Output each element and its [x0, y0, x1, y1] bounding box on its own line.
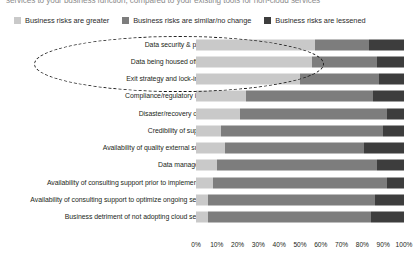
bar-segment[interactable]	[379, 74, 404, 85]
stacked-bar[interactable]	[196, 39, 404, 50]
x-axis-tick-label: 40%	[273, 241, 286, 249]
bar-segment[interactable]	[196, 160, 217, 171]
bar-segment[interactable]	[377, 56, 404, 67]
legend-swatch-lessened	[264, 17, 271, 24]
bar-segment[interactable]	[369, 39, 404, 50]
bar-segment[interactable]	[364, 143, 404, 154]
bar-segment[interactable]	[312, 56, 376, 67]
bar-segment[interactable]	[196, 74, 300, 85]
x-axis-tick-label: 30%	[252, 241, 265, 249]
stacked-bar[interactable]	[196, 125, 404, 136]
chart-row: Disaster/recovery of data	[0, 105, 414, 122]
bar-segment[interactable]	[246, 91, 373, 102]
x-axis-tick-label: 90%	[377, 241, 390, 249]
chart-row: Data security & privacy	[0, 36, 414, 53]
bar-segment[interactable]	[196, 177, 213, 188]
bar-segment[interactable]	[196, 212, 208, 223]
stacked-bar[interactable]	[196, 91, 404, 102]
stacked-bar[interactable]	[196, 160, 404, 171]
bar-segment[interactable]	[377, 160, 404, 171]
chart-plot-area: Data security & privacyData being housed…	[0, 36, 414, 240]
bar-segment[interactable]	[217, 160, 377, 171]
bar-segment[interactable]	[196, 143, 225, 154]
chart-legend: Business risks are greaterBusiness risks…	[0, 14, 414, 27]
legend-item[interactable]: Business risks are similar/no change	[122, 17, 251, 25]
x-axis-tick-label: 10%	[210, 241, 223, 249]
bar-segment[interactable]	[196, 91, 246, 102]
chart-row: Exit strategy and lock-in risks	[0, 71, 414, 88]
bar-segment[interactable]	[196, 195, 208, 206]
chart-row: Credibility of suppliers	[0, 122, 414, 139]
legend-swatch-similar	[122, 17, 129, 24]
bar-segment[interactable]	[208, 195, 374, 206]
legend-item-label: Business risks are lessened	[275, 17, 365, 25]
bar-segment[interactable]	[387, 108, 404, 119]
category-label: Business detriment of not adopting cloud…	[65, 213, 214, 221]
x-axis-tick-label: 60%	[314, 241, 327, 249]
x-axis-tick-label: 20%	[231, 241, 244, 249]
bar-segment[interactable]	[300, 74, 379, 85]
bar-segment[interactable]	[196, 108, 240, 119]
chart-row: Availability of quality external support	[0, 140, 414, 157]
chart-row: Data being housed offshore	[0, 53, 414, 70]
bar-segment[interactable]	[196, 56, 312, 67]
chart-row: Availability of consulting support prior…	[0, 174, 414, 191]
x-axis-tick-label: 100%	[396, 241, 413, 249]
bar-segment[interactable]	[240, 108, 388, 119]
bar-segment[interactable]	[208, 212, 370, 223]
bar-segment[interactable]	[221, 125, 383, 136]
bar-segment[interactable]	[196, 125, 221, 136]
bar-segment[interactable]	[375, 195, 404, 206]
category-label: Availability of consulting support to op…	[30, 196, 214, 204]
legend-item[interactable]: Business risks are lessened	[264, 17, 365, 25]
x-axis-tick-label: 50%	[293, 241, 306, 249]
bar-segment[interactable]	[315, 39, 369, 50]
stacked-bar[interactable]	[196, 212, 404, 223]
x-axis-tick-label: 70%	[335, 241, 348, 249]
bar-segment[interactable]	[225, 143, 364, 154]
intro-text-clipped: services to your business function, comp…	[0, 0, 414, 7]
bar-segment[interactable]	[373, 91, 404, 102]
stacked-bar[interactable]	[196, 56, 404, 67]
bar-segment[interactable]	[371, 212, 404, 223]
chart-row: Compliance/regulatory issues	[0, 88, 414, 105]
category-label: Availability of consulting support prior…	[47, 179, 214, 187]
intro-text: services to your business function, comp…	[0, 0, 414, 6]
x-axis-tick-label: 80%	[356, 241, 369, 249]
stacked-bar[interactable]	[196, 74, 404, 85]
stacked-bar[interactable]	[196, 195, 404, 206]
chart-row: Availability of consulting support to op…	[0, 191, 414, 208]
x-axis: 0%10%20%30%40%50%60%70%80%90%100%	[0, 240, 414, 254]
x-axis-tick-label: 0%	[191, 241, 201, 249]
legend-item[interactable]: Business risks are greater	[14, 17, 109, 25]
legend-item-label: Business risks are greater	[25, 17, 109, 25]
bar-segment[interactable]	[383, 125, 404, 136]
chart-row: Business detriment of not adopting cloud…	[0, 209, 414, 226]
chart-row: Data management	[0, 157, 414, 174]
legend-swatch-greater	[14, 17, 21, 24]
stacked-bar[interactable]	[196, 177, 404, 188]
stacked-bar[interactable]	[196, 143, 404, 154]
stacked-bar[interactable]	[196, 108, 404, 119]
legend-item-label: Business risks are similar/no change	[133, 17, 251, 25]
bar-segment[interactable]	[196, 39, 315, 50]
bar-segment[interactable]	[213, 177, 388, 188]
bar-segment[interactable]	[387, 177, 404, 188]
